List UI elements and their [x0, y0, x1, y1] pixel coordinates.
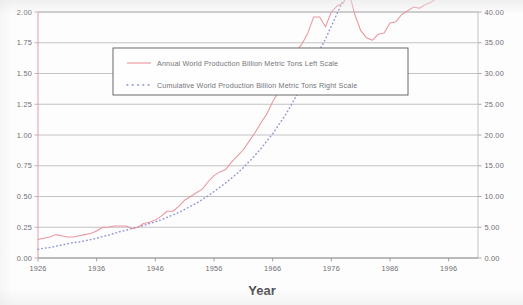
left-axis-tick-labels: 0.000.250.500.751.001.251.501.752.00 [17, 8, 32, 263]
x-axis-tick-label: 1996 [440, 264, 457, 273]
legend-label: Cumulative World Production Billion Metr… [157, 81, 357, 90]
right-axis-tick-label: 40.00 [485, 8, 505, 17]
left-axis-tick-label: 2.00 [17, 8, 32, 17]
left-axis-tick-label: 1.75 [17, 38, 32, 47]
production-chart: 0.000.250.500.751.001.251.501.752.00 0.0… [0, 0, 523, 305]
legend-label: Annual World Production Billion Metric T… [157, 59, 338, 68]
x-axis-tick-label: 1926 [29, 264, 46, 273]
x-axis-tick-label: 1956 [205, 264, 222, 273]
series-annual-world-production [38, 0, 472, 240]
right-axis-tick-label: 25.00 [485, 100, 505, 109]
plot-area: 0.000.250.500.751.001.251.501.752.00 0.0… [0, 0, 523, 305]
legend: Annual World Production Billion Metric T… [113, 48, 408, 95]
left-axis-tick-label: 0.75 [17, 161, 32, 170]
x-axis-tick-label: 1946 [147, 264, 164, 273]
left-axis-tick-label: 1.00 [17, 131, 32, 140]
left-axis-tick-label: 1.25 [17, 100, 32, 109]
x-axis-tick-label: 1936 [88, 264, 105, 273]
right-axis-tick-label: 10.00 [485, 192, 505, 201]
cumulative-production-line [38, 0, 472, 249]
right-axis-tick-label: 35.00 [485, 38, 505, 47]
left-axis-tick-label: 0.25 [17, 223, 32, 232]
right-axis-tick-label: 30.00 [485, 69, 505, 78]
right-axis-tick-labels: 0.005.0010.0015.0020.0025.0030.0035.0040… [485, 8, 505, 263]
right-axis-tick-label: 20.00 [485, 131, 505, 140]
chart-figure: 0.000.250.500.751.001.251.501.752.00 0.0… [0, 0, 523, 305]
x-axis-title: Year [248, 283, 275, 298]
left-axis-tick-label: 1.50 [17, 69, 32, 78]
x-axis-tick-label: 1966 [264, 264, 281, 273]
annual-production-line [38, 0, 472, 240]
right-axis-tick-label: 0.00 [485, 254, 500, 263]
left-axis-tick-label: 0.00 [17, 254, 32, 263]
x-axis-tick-label: 1986 [381, 264, 398, 273]
right-axis-tick-label: 5.00 [485, 223, 500, 232]
left-axis-tick-label: 0.50 [17, 192, 32, 201]
series-cumulative-world-production [38, 0, 472, 249]
x-axis-tick-labels: 19261936194619561966197619861996 [29, 264, 457, 273]
right-axis-tick-label: 15.00 [485, 161, 505, 170]
x-axis-tick-label: 1976 [323, 264, 340, 273]
